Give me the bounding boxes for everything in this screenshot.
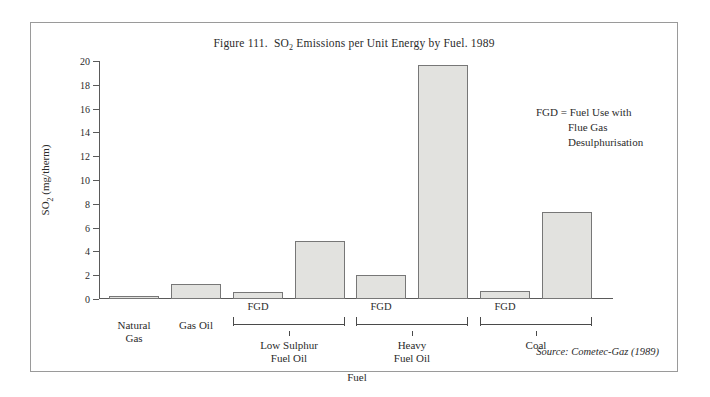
bar-heavy-fuel-oil — [418, 65, 468, 299]
y-axis-tick-label: 20 — [80, 56, 90, 67]
y-axis-tick-mark — [93, 180, 99, 181]
y-axis-tick-label: 8 — [85, 198, 90, 209]
y-axis-tick-mark — [93, 228, 99, 229]
y-axis-tick-mark — [93, 251, 99, 252]
fgd-tag-4: FGD — [494, 301, 515, 312]
group-label-2: Low SulphurFuel Oil — [260, 339, 318, 365]
legend: FGD = Fuel Use with Flue Gas Desulphuris… — [536, 105, 643, 150]
x-axis-title: Fuel — [347, 371, 367, 383]
source-note: Source: Cometec-Gaz (1989) — [536, 346, 659, 357]
y-axis-title-so: SO — [39, 201, 51, 215]
y-axis-tick-mark — [93, 275, 99, 276]
bar-low-sulphur-fuel-oil-fgd — [233, 292, 283, 299]
chart-title-main: Emissions per Unit Energy by Fuel. 1989 — [296, 37, 494, 49]
fgd-tag-2: FGD — [247, 301, 268, 312]
group-label-1: Gas Oil — [179, 319, 213, 332]
y-axis-tick-label: 10 — [80, 175, 90, 186]
bar-low-sulphur-fuel-oil — [295, 241, 345, 299]
group-label-line-1: Natural — [118, 319, 151, 332]
y-axis-tick-label: 2 — [85, 270, 90, 281]
legend-line-1: FGD = Fuel Use with — [536, 106, 631, 118]
y-axis-line — [99, 61, 100, 299]
group-label-line-1: Low Sulphur — [260, 339, 318, 352]
group-label-line-2: Fuel Oil — [260, 352, 318, 365]
chart-title: Figure 111. SO2 Emissions per Unit Energ… — [31, 37, 677, 52]
y-axis-title: SO2 (mg/therm) — [39, 145, 54, 216]
y-axis-tick-mark — [93, 61, 99, 62]
group-label-line-1: Heavy — [394, 339, 430, 352]
y-axis-tick-mark — [93, 204, 99, 205]
y-axis-title-subscript: 2 — [46, 197, 55, 201]
group-brace-tip — [412, 331, 413, 336]
group-label-0: NaturalGas — [118, 319, 151, 345]
title-subscript-2: 2 — [289, 43, 293, 52]
bar-coal-fgd — [480, 291, 530, 299]
group-label-3: HeavyFuel Oil — [394, 339, 430, 365]
group-brace-4 — [480, 317, 592, 326]
group-brace-2 — [233, 317, 345, 326]
y-axis-tick-label: 14 — [80, 127, 90, 138]
y-axis-tick-mark — [93, 299, 99, 300]
plot-area: SO2 (mg/therm) 02468101214161820 Natural… — [99, 61, 599, 299]
bar-heavy-fuel-oil-fgd — [356, 275, 406, 299]
y-axis-tick-label: 16 — [80, 103, 90, 114]
fgd-tag-3: FGD — [370, 301, 391, 312]
legend-line-3: Desulphurisation — [536, 135, 643, 150]
legend-line-2: Flue Gas — [536, 120, 643, 135]
y-axis-title-unit: (mg/therm) — [39, 145, 51, 195]
bar-gas-oil — [171, 284, 221, 299]
y-axis-tick-mark — [93, 156, 99, 157]
y-axis-tick-mark — [93, 85, 99, 86]
group-brace-tip — [289, 331, 290, 336]
group-label-line-2: Fuel Oil — [394, 352, 430, 365]
y-axis-tick-mark — [93, 109, 99, 110]
y-axis-tick-label: 0 — [85, 294, 90, 305]
bar-natural-gas — [109, 296, 159, 299]
group-label-line-2: Gas — [118, 332, 151, 345]
group-brace-tip — [536, 331, 537, 336]
group-brace-3 — [356, 317, 468, 326]
y-axis-tick-label: 18 — [80, 79, 90, 90]
y-axis-tick-mark — [93, 132, 99, 133]
figure-frame: Figure 111. SO2 Emissions per Unit Energ… — [30, 22, 678, 372]
y-axis-tick-label: 4 — [85, 246, 90, 257]
chart-title-prefix: Figure 111. — [213, 37, 267, 49]
y-axis-tick-label: 6 — [85, 222, 90, 233]
group-label-line-1: Gas Oil — [179, 319, 213, 332]
y-axis-tick-label: 12 — [80, 151, 90, 162]
bar-coal — [542, 212, 592, 299]
